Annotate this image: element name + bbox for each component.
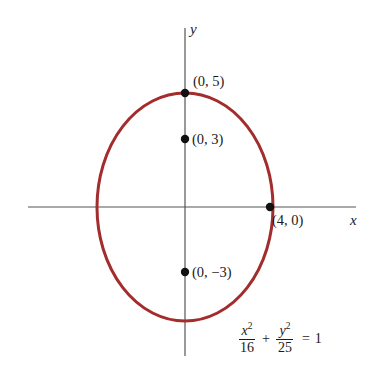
equation-right-side: 1 (315, 331, 322, 347)
equation-term-2-denominator: 25 (275, 340, 295, 356)
equation-term-1-numerator: x2 (239, 322, 256, 340)
point-marker-focus-upper (181, 135, 189, 143)
ellipse-figure: y x (0, 5) (0, 3) (0, −3) (4, 0) x2 16 +… (0, 0, 376, 379)
equation-term-2: y2 25 (275, 322, 295, 356)
equation-equals-sign: = (302, 331, 310, 347)
point-label-vertex-top: (0, 5) (193, 74, 224, 89)
point-label-focus-upper: (0, 3) (192, 132, 223, 147)
point-label-vertex-right: (4, 0) (272, 213, 303, 228)
equation-term-2-numerator: y2 (276, 322, 293, 340)
equation-plus-operator: + (262, 331, 270, 347)
point-marker-focus-lower (181, 268, 189, 276)
point-marker-vertex-right (266, 203, 274, 211)
equation-term-1: x2 16 (237, 322, 257, 356)
ellipse-equation: x2 16 + y2 25 = 1 (236, 322, 322, 356)
x-axis-label: x (350, 213, 357, 228)
equation-term-2-exponent: 2 (286, 321, 291, 331)
point-label-focus-lower: (0, −3) (192, 265, 232, 280)
equation-term-1-exponent: 2 (248, 321, 253, 331)
y-axis-label: y (190, 22, 197, 37)
point-marker-vertex-top (181, 89, 189, 97)
equation-term-1-denominator: 16 (237, 340, 257, 356)
